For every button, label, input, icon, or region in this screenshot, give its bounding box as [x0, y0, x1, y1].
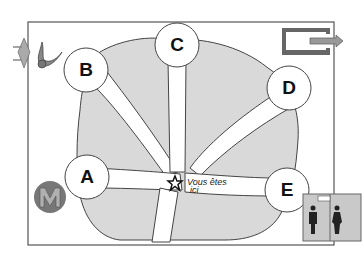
exit-a-label: A — [67, 157, 107, 197]
exit-d-label: D — [269, 68, 309, 108]
exit-b-label: B — [66, 50, 106, 90]
you-are-here-label: Vous êtes ici — [187, 178, 227, 194]
station-area — [77, 38, 298, 240]
exit-e-label: E — [267, 170, 307, 210]
metro-icon — [34, 181, 66, 213]
toilets-icon — [303, 194, 361, 241]
you-are-here-line2: ici — [187, 186, 227, 194]
exit-c-label: C — [157, 25, 197, 65]
